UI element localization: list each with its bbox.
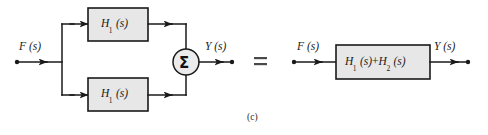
sum-block-term2-arg: (s) (394, 55, 406, 67)
equals-bar-bottom (254, 63, 267, 65)
block-h1-upper-label-sub: 1 (109, 26, 113, 35)
block-h1-lower-label-arg: (s) (116, 87, 128, 99)
right-output-terminal-dot (466, 60, 470, 64)
block-h1-lower-label-sub: 1 (109, 96, 113, 105)
right-input-label: F (s) (297, 41, 319, 53)
left-output-terminal-dot (230, 60, 234, 64)
right-output-label: Y (s) (434, 41, 455, 53)
equals-bar-top (254, 57, 267, 59)
block-h1-upper-label-arg: (s) (116, 17, 128, 29)
figure-caption: (c) (247, 112, 258, 122)
left-output-label: Y (s) (205, 41, 226, 53)
sum-block-term1-arg: (s) (360, 55, 372, 67)
sum-block-term2-sub: 2 (386, 64, 390, 73)
block-diagram-figure: F (s) Y (s) Σ H1 (s) H1 (s) F (s) Y (s) … (0, 0, 488, 135)
left-input-label: F (s) (19, 41, 41, 53)
block-h1-plus-h2-label: H1 (s)+H2 (s) (345, 56, 406, 70)
diagram-canvas (0, 0, 488, 135)
sum-block-term1-sub: 1 (353, 64, 357, 73)
block-h1-lower-label: H1 (s) (101, 88, 128, 102)
sigma-symbol: Σ (179, 54, 189, 72)
block-h1-upper-label: H1 (s) (101, 18, 128, 32)
